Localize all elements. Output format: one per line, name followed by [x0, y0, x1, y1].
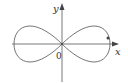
y-axis-label: y [52, 3, 59, 14]
y-axis-arrow-icon [60, 3, 65, 10]
origin-point [61, 43, 63, 45]
marked-point [107, 37, 110, 40]
x-axis-label: x [115, 46, 121, 57]
origin-label: 0 [56, 51, 62, 61]
lemniscate-diagram: y x 0 [0, 0, 128, 83]
